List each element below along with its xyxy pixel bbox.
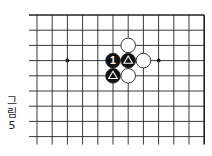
move-number-label: 1 [110,54,116,66]
white-stone [121,69,136,84]
hoshi-point [65,59,69,63]
go-board: 1 [0,0,212,156]
hoshi-point [157,59,161,63]
figure-caption: 그 림 5 [3,96,21,132]
caption-number: 5 [3,120,21,132]
white-stone [121,38,136,53]
white-stone [136,53,151,68]
